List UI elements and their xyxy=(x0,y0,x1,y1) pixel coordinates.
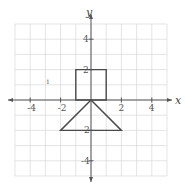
stray-mark: 1 xyxy=(46,78,50,85)
x-axis-arrow-left-icon xyxy=(8,98,13,102)
coordinate-plane: -4-22442-2-4 x y 1 xyxy=(0,0,185,188)
x-axis-arrow-right-icon xyxy=(167,98,172,102)
y-axis-label: y xyxy=(85,6,93,19)
x-tick-label: 2 xyxy=(118,103,124,113)
x-axis-label: x xyxy=(175,94,182,107)
x-tick-label: 4 xyxy=(149,103,155,113)
y-tick-label: -4 xyxy=(81,156,90,166)
x-tick-label: -4 xyxy=(27,103,36,113)
y-tick-label: -2 xyxy=(81,125,90,135)
y-tick-label: 2 xyxy=(83,65,89,75)
y-axis-arrow-down-icon xyxy=(89,177,93,182)
y-tick-label: 4 xyxy=(83,34,89,44)
x-tick-label: -2 xyxy=(58,103,67,113)
